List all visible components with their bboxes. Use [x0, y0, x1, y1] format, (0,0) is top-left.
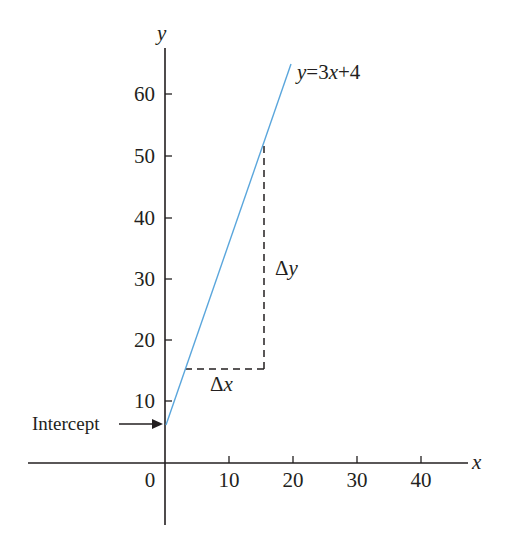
y-tick-label-20: 20	[134, 328, 155, 352]
x-tick-label-0: 0	[145, 468, 156, 492]
x-ticks	[229, 456, 421, 463]
y-tick-label-40: 40	[134, 206, 155, 230]
delta-x-label: Δx	[210, 372, 234, 396]
y-tick-label-30: 30	[134, 267, 155, 291]
y-ticks	[165, 94, 172, 401]
x-tick-label-30: 30	[347, 468, 368, 492]
x-tick-label-20: 20	[283, 468, 304, 492]
y-axis-label: y	[155, 21, 167, 45]
series-line	[166, 64, 291, 425]
line-chart: 60 50 40 30 20 10 0 10 20 30 40 y x y=3x…	[0, 0, 506, 547]
x-tick-label-40: 40	[411, 468, 432, 492]
y-tick-label-10: 10	[134, 389, 155, 413]
delta-y-label: Δy	[275, 256, 299, 280]
x-tick-label-10: 10	[219, 468, 240, 492]
y-tick-label-60: 60	[134, 82, 155, 106]
equation-label: y=3x+4	[295, 60, 361, 84]
y-tick-label-50: 50	[134, 144, 155, 168]
intercept-arrow-icon	[152, 419, 163, 429]
x-axis-label: x	[471, 450, 482, 474]
intercept-label: Intercept	[32, 413, 100, 434]
